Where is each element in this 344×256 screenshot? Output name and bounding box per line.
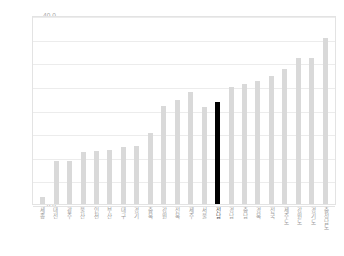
bar-slot — [238, 17, 251, 204]
bar — [40, 197, 45, 204]
bar — [81, 152, 86, 204]
bar-slot — [211, 17, 224, 204]
x-axis-tick-label: 제주 — [188, 207, 194, 219]
bar-slot — [171, 17, 184, 204]
x-axis-tick-label: 전남 — [215, 207, 221, 219]
x-axis-label-slot: 경기도 — [306, 206, 320, 256]
x-axis-label-slot: 대전 — [49, 206, 63, 256]
bar-slot — [278, 17, 291, 204]
bar-slot — [36, 17, 49, 204]
bar — [296, 58, 301, 204]
x-axis-label-slot: 전남 — [211, 206, 225, 256]
x-axis-tick-label: 경기 — [134, 207, 140, 219]
bar — [242, 84, 247, 204]
bar-slot — [144, 17, 157, 204]
bar — [148, 133, 153, 204]
bar-highlighted — [215, 102, 221, 204]
x-axis-label-slot: 부산 — [103, 206, 117, 256]
bar-slot — [184, 17, 197, 204]
x-axis-label-slot: 강원도 — [292, 206, 306, 256]
x-axis-tick-label: 전국 — [269, 207, 275, 219]
x-axis-label-slot: 충북 — [143, 206, 157, 256]
x-axis-label-slot: 경기 — [130, 206, 144, 256]
bar-slot — [130, 17, 143, 204]
x-axis-label-slot: 충남 — [238, 206, 252, 256]
bar-chart: 40.035.030.025.020.015.010.05.00.0 세종대전광… — [0, 0, 344, 256]
x-axis-label-slot: 대구 — [116, 206, 130, 256]
x-axis-tick-label: 부산 — [107, 207, 113, 219]
bar — [107, 150, 112, 204]
bar-slot — [157, 17, 170, 204]
bar — [323, 38, 328, 204]
bar-slot — [49, 17, 62, 204]
bar — [269, 76, 274, 204]
x-axis-tick-label: 제주도 — [283, 207, 289, 224]
x-axis-tick-label: 울산 — [80, 207, 86, 219]
x-axis-tick-label: 경남 — [229, 207, 235, 219]
bar-slot — [90, 17, 103, 204]
x-axis-label-slot: 인천 — [89, 206, 103, 256]
bar — [309, 58, 314, 204]
bar — [175, 100, 180, 204]
bar-series — [33, 17, 335, 204]
x-axis-label-slot: 경남 — [225, 206, 239, 256]
bar-slot — [292, 17, 305, 204]
bar — [67, 161, 72, 204]
x-axis-tick-label: 광주 — [66, 207, 72, 219]
bar-slot — [117, 17, 130, 204]
x-axis-tick-label: 강원 — [161, 207, 167, 219]
bar-slot — [63, 17, 76, 204]
bar — [255, 81, 260, 204]
x-axis-labels: 세종대전광주울산인천부산대구경기충북강원전북제주서울전남경남충남경북전국제주도강… — [32, 206, 336, 256]
x-axis-label-slot: 제주 — [184, 206, 198, 256]
bar — [161, 106, 166, 204]
bar — [121, 147, 126, 204]
bar-slot — [305, 17, 318, 204]
bar-slot — [224, 17, 237, 204]
x-axis-label-slot: 광주 — [62, 206, 76, 256]
x-axis-tick-label: 충북 — [147, 207, 153, 219]
bar-slot — [265, 17, 278, 204]
x-axis-label-slot: 충청남도 — [319, 206, 333, 256]
bar — [94, 151, 99, 204]
plot-area — [32, 16, 336, 205]
bar — [188, 92, 193, 204]
x-axis-label-slot: 전북 — [170, 206, 184, 256]
x-axis-tick-label: 충청남도 — [323, 207, 329, 230]
x-axis-tick-label: 충남 — [242, 207, 248, 219]
bar-slot — [319, 17, 332, 204]
bar — [134, 146, 139, 204]
bar — [229, 87, 234, 204]
bar — [282, 69, 287, 204]
bar-slot — [103, 17, 116, 204]
x-axis-label-slot: 전국 — [265, 206, 279, 256]
x-axis-label-slot: 강원 — [157, 206, 171, 256]
x-axis-tick-label: 대구 — [120, 207, 126, 219]
bar-slot — [76, 17, 89, 204]
x-axis-tick-label: 강원도 — [296, 207, 302, 224]
bar-slot — [251, 17, 264, 204]
x-axis-tick-label: 인천 — [93, 207, 99, 219]
bar-slot — [197, 17, 210, 204]
x-axis-tick-label: 경기도 — [310, 207, 316, 224]
x-axis-tick-label: 경북 — [256, 207, 262, 219]
x-axis-label-slot: 제주도 — [279, 206, 293, 256]
x-axis-tick-label: 대전 — [52, 207, 58, 219]
x-axis-tick-label: 세종 — [39, 207, 45, 219]
x-axis-tick-label: 전북 — [174, 207, 180, 219]
x-axis-tick-label: 서울 — [201, 207, 207, 219]
bar — [202, 107, 207, 204]
bar — [54, 161, 59, 204]
x-axis-label-slot: 서울 — [198, 206, 212, 256]
x-axis-label-slot: 세종 — [35, 206, 49, 256]
x-axis-label-slot: 울산 — [76, 206, 90, 256]
x-axis-label-slot: 경북 — [252, 206, 266, 256]
